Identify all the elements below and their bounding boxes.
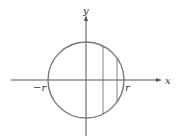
x-axis-arrow-icon [156,78,162,82]
x-axis-label: x [165,75,171,86]
neg-r-label: −r [33,82,47,93]
r-label: r [125,82,131,93]
y-axis-label: y [82,5,89,16]
circle-diagram: y x −r r [0,0,178,138]
